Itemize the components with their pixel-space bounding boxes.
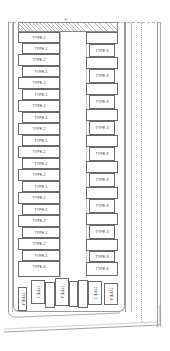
unit-label: TYPE-2 — [32, 81, 45, 85]
unit-bottom-4[interactable]: TYPE-4 — [55, 278, 69, 306]
unit-label: TYPE-4 — [109, 287, 113, 300]
unit-label: TYPE-1 — [93, 286, 97, 299]
unit-label: TYPE-2 — [32, 150, 45, 154]
unit-right-4[interactable]: TYPE-3 — [89, 69, 115, 83]
unit-right-1[interactable] — [86, 32, 118, 44]
unit-label: TYPE-1 — [34, 208, 47, 212]
unit-label: TYPE-1 — [34, 185, 47, 189]
unit-right-6[interactable]: TYPE-3 — [89, 95, 115, 109]
unit-left-18[interactable]: TYPE-1 — [22, 227, 60, 238]
unit-label: TYPE-3 — [95, 49, 108, 53]
unit-label: TYPE-2 — [32, 36, 45, 40]
unit-label: TYPE-3 — [95, 230, 108, 234]
unit-label: TYPE-1 — [34, 47, 47, 51]
road-line-3 — [157, 22, 158, 327]
unit-left-13[interactable]: TYPE-2 — [18, 169, 60, 181]
road-line-4 — [160, 22, 161, 327]
unit-label: TYPE-1 — [34, 162, 47, 166]
driveway-edge-left — [60, 32, 61, 278]
unit-right-18[interactable]: TYPE-3 — [89, 251, 115, 262]
unit-label: TYPE-4 — [60, 285, 64, 298]
unit-label: TYPE-2 — [32, 58, 45, 62]
unit-right-15[interactable] — [86, 213, 118, 225]
unit-left-10[interactable]: TYPE-1 — [22, 135, 60, 146]
unit-left-6[interactable]: TYPE-1 — [22, 89, 60, 100]
unit-left-16[interactable]: TYPE-1 — [22, 204, 60, 215]
unit-label: TYPE-2 — [32, 104, 45, 108]
unit-right-13[interactable] — [86, 187, 118, 199]
unit-label: TYPE-1 — [36, 285, 40, 298]
unit-left-14[interactable]: TYPE-1 — [22, 181, 60, 192]
unit-right-16[interactable]: TYPE-3 — [89, 225, 115, 239]
unit-right-8[interactable]: TYPE-3 — [89, 121, 115, 135]
unit-label: TYPE-1 — [34, 93, 47, 97]
unit-label: TYPE-3 — [95, 178, 108, 182]
unit-left-11[interactable]: TYPE-2 — [18, 146, 60, 158]
unit-left-15[interactable]: TYPE-2 — [18, 192, 60, 204]
unit-label: TYPE-1 — [34, 70, 47, 74]
unit-label: TYPE-4 — [32, 265, 45, 269]
unit-right-5[interactable] — [86, 83, 118, 95]
unit-label: TYPE-1 — [34, 139, 47, 143]
unit-label: TYPE-1 — [34, 116, 47, 120]
unit-label: TYPE-1 — [34, 231, 47, 235]
unit-label: TYPE-2 — [32, 219, 45, 223]
unit-bottom-2[interactable]: TYPE-1 — [31, 280, 45, 304]
unit-bottom-5[interactable] — [69, 281, 78, 307]
unit-left-7[interactable]: TYPE-2 — [18, 100, 60, 112]
unit-right-12[interactable]: TYPE-3 — [89, 173, 115, 187]
unit-label: TYPE-3 — [95, 74, 108, 78]
unit-left-17[interactable]: TYPE-2 — [18, 215, 60, 227]
unit-label: TYPE-1 — [34, 254, 47, 258]
unit-bottom-1[interactable]: TYPE-4 — [18, 287, 27, 311]
unit-left-2[interactable]: TYPE-1 — [22, 43, 60, 54]
unit-left-19[interactable]: TYPE-2 — [18, 238, 60, 250]
unit-label: TYPE-3 — [95, 204, 108, 208]
unit-label: TYPE-3 — [95, 126, 108, 130]
unit-left-20[interactable]: TYPE-1 — [22, 250, 60, 261]
unit-bottom-8[interactable]: TYPE-4 — [104, 283, 118, 305]
unit-left-1[interactable]: TYPE-2 — [18, 32, 60, 43]
road-centerline — [141, 22, 142, 322]
unit-left-3[interactable]: TYPE-2 — [18, 54, 60, 66]
unit-bottom-3[interactable] — [45, 282, 55, 308]
unit-right-10[interactable]: TYPE-3 — [89, 147, 115, 161]
unit-right-3[interactable] — [86, 57, 118, 69]
unit-left-8[interactable]: TYPE-1 — [22, 112, 60, 123]
road-line-2 — [131, 22, 132, 312]
unit-label: TYPE-2 — [32, 196, 45, 200]
unit-right-7[interactable] — [86, 109, 118, 121]
unit-label: TYPE-3 — [95, 100, 108, 104]
unit-label: TYPE-2 — [32, 127, 45, 131]
road-line-1 — [125, 22, 126, 312]
unit-label: TYPE-4 — [21, 292, 25, 305]
unit-label: TYPE-3 — [95, 152, 108, 156]
unit-bottom-7[interactable]: TYPE-1 — [88, 281, 102, 305]
unit-label: TYPE-3 — [95, 255, 108, 259]
unit-label: TYPE-4 — [95, 267, 108, 271]
unit-right-9[interactable] — [86, 135, 118, 147]
unit-left-5[interactable]: TYPE-2 — [18, 77, 60, 89]
unit-label: TYPE-2 — [32, 173, 45, 177]
unit-right-19[interactable]: TYPE-4 — [86, 262, 118, 276]
unit-right-2[interactable]: TYPE-3 — [89, 44, 115, 57]
site-boundary-left — [8, 22, 9, 312]
site-plan: + TYPE-2 TYPE-1 TYPE-2 TYPE-1 TYPE-2 TYP… — [0, 0, 170, 351]
unit-right-11[interactable] — [86, 161, 118, 173]
unit-left-9[interactable]: TYPE-2 — [18, 123, 60, 135]
unit-right-17[interactable] — [86, 239, 118, 251]
unit-bottom-6[interactable] — [78, 280, 88, 308]
unit-label: TYPE-2 — [32, 242, 45, 246]
unit-right-14[interactable]: TYPE-3 — [89, 199, 115, 213]
unit-left-12[interactable]: TYPE-1 — [22, 158, 60, 169]
unit-left-21[interactable]: TYPE-4 — [18, 261, 60, 277]
unit-left-4[interactable]: TYPE-1 — [22, 66, 60, 77]
